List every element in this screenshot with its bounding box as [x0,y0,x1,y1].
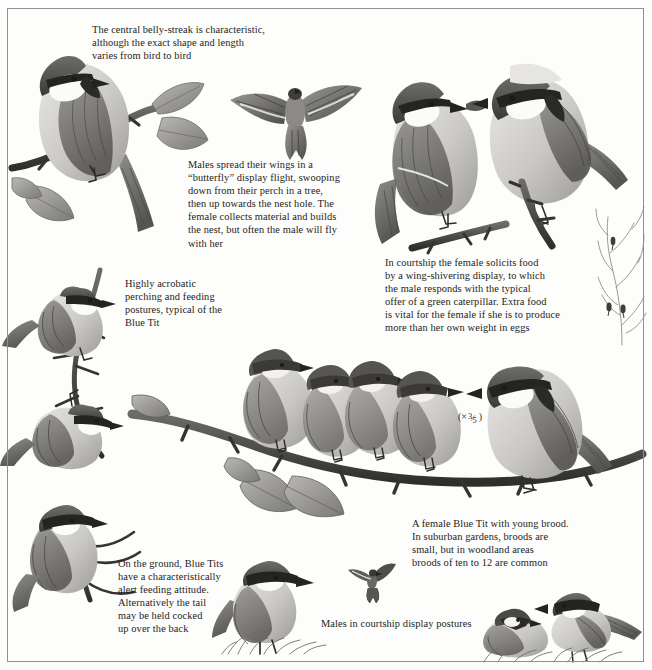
scale-note: (×3⁄5) [458,411,482,424]
scale-fraction: 3⁄5 [467,415,479,423]
caption-courtship-postures: Males in courtship display postures [321,617,531,630]
caption-belly-streak: The central belly-streak is characterist… [92,23,332,62]
scale-denominator: 5 [473,416,477,425]
figure-adult-female-on-branch [476,350,616,490]
scale-note-suffix: ) [479,411,482,422]
caption-butterfly-display: Males spread their wings in a “butterfly… [188,158,376,250]
scale-note-prefix: (× [458,411,467,422]
figure-courtship-posture-upright [542,590,644,662]
caption-female-with-brood: A female Blue Tit with young brood. In s… [412,517,624,569]
caption-acrobatic-postures: Highly acrobatic perching and feeding po… [125,277,247,329]
figure-display-flight-small [346,562,398,604]
caption-ground-feeding: On the ground, Blue Tits have a characte… [118,557,256,636]
caption-courtship-feeding: In courtship the female solicits food by… [385,256,641,335]
figure-butterfly-display-flight [226,68,366,168]
illustration-plate: The central belly-streak is characterist… [0,0,652,670]
